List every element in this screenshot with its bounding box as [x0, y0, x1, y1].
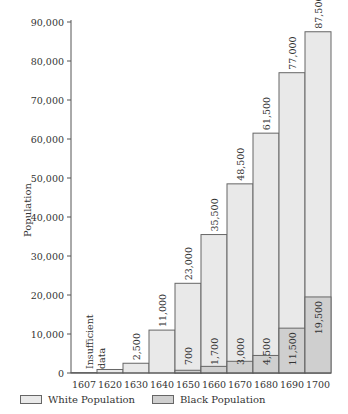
- legend-label-white: White Population: [48, 394, 135, 405]
- x-tick-label: 1670: [228, 379, 252, 390]
- y-tick-label: 60,000: [31, 134, 64, 145]
- black-value-label: 700: [183, 347, 194, 365]
- white-bar: [97, 369, 123, 373]
- legend-item-black: Black Population: [152, 394, 265, 405]
- legend: White Population Black Population: [0, 394, 348, 410]
- x-tick-label: 1700: [306, 379, 330, 390]
- white-value-label: 87,500: [313, 0, 324, 29]
- x-tick-label: 1660: [202, 379, 226, 390]
- white-value-label: 48,500: [235, 148, 246, 181]
- white-value-label: 35,500: [209, 198, 220, 231]
- y-axis-title: Population: [22, 182, 33, 237]
- y-tick-label: 10,000: [31, 329, 64, 340]
- bar-group-1670: 48,5003,000: [227, 148, 253, 373]
- x-tick-label: 1620: [98, 379, 122, 390]
- y-tick-label: 70,000: [31, 95, 64, 106]
- y-tick-label: 80,000: [31, 56, 64, 67]
- insufficient-data-annotation-line1: Insufficient: [84, 314, 95, 369]
- bar-group-1690: 77,00011,500: [279, 36, 305, 373]
- legend-item-white: White Population: [20, 394, 135, 405]
- white-bar: [253, 133, 279, 373]
- white-value-label: 77,000: [287, 36, 298, 69]
- y-tick-label: 50,000: [31, 173, 64, 184]
- y-axis: 010,00020,00030,00040,00050,00060,00070,…: [31, 17, 71, 379]
- bar-group-1630: 2,500: [123, 333, 149, 373]
- white-value-label: 2,500: [131, 333, 142, 360]
- x-tick-label: 1640: [150, 379, 174, 390]
- insufficient-data-annotation-line2: data: [96, 347, 107, 369]
- black-value-label: 3,000: [235, 338, 246, 365]
- white-bar: [149, 330, 175, 373]
- white-value-label: 23,000: [183, 247, 194, 280]
- black-value-label: 4,500: [261, 338, 272, 365]
- black-bar: [201, 366, 227, 373]
- x-tick-label: 1680: [254, 379, 278, 390]
- bar-group-1640: 11,000: [149, 294, 175, 373]
- x-tick-label: 1630: [124, 379, 148, 390]
- black-swatch-icon: [152, 395, 174, 404]
- y-tick-label: 30,000: [31, 251, 64, 262]
- population-chart: 010,00020,00030,00040,00050,00060,00070,…: [0, 0, 348, 394]
- bar-group-1660: 35,5001,700: [201, 198, 227, 373]
- y-tick-label: 20,000: [31, 290, 64, 301]
- y-tick-label: 90,000: [31, 17, 64, 28]
- white-value-label: 11,000: [157, 294, 168, 327]
- x-tick-label: 1650: [176, 379, 200, 390]
- y-tick-label: 40,000: [31, 212, 64, 223]
- black-value-label: 1,700: [209, 338, 220, 365]
- bar-group-1650: 23,000700: [175, 247, 201, 373]
- x-axis: 1607162016301640165016601670168016901700: [71, 373, 331, 390]
- bar-group-1700: 87,50019,500: [305, 0, 331, 373]
- legend-label-black: Black Population: [180, 394, 265, 405]
- x-tick-label: 1690: [280, 379, 304, 390]
- white-swatch-icon: [20, 395, 42, 404]
- x-tick-label: 1607: [72, 379, 96, 390]
- white-bar: [123, 363, 149, 373]
- black-value-label: 19,500: [313, 301, 324, 334]
- bar-group-1680: 61,5004,500: [253, 97, 279, 373]
- bars: 2,50011,00023,00070035,5001,70048,5003,0…: [71, 0, 331, 373]
- black-value-label: 11,500: [287, 332, 298, 365]
- white-value-label: 61,500: [261, 97, 272, 130]
- y-tick-label: 0: [58, 368, 64, 379]
- bar-group-1620: [97, 369, 123, 373]
